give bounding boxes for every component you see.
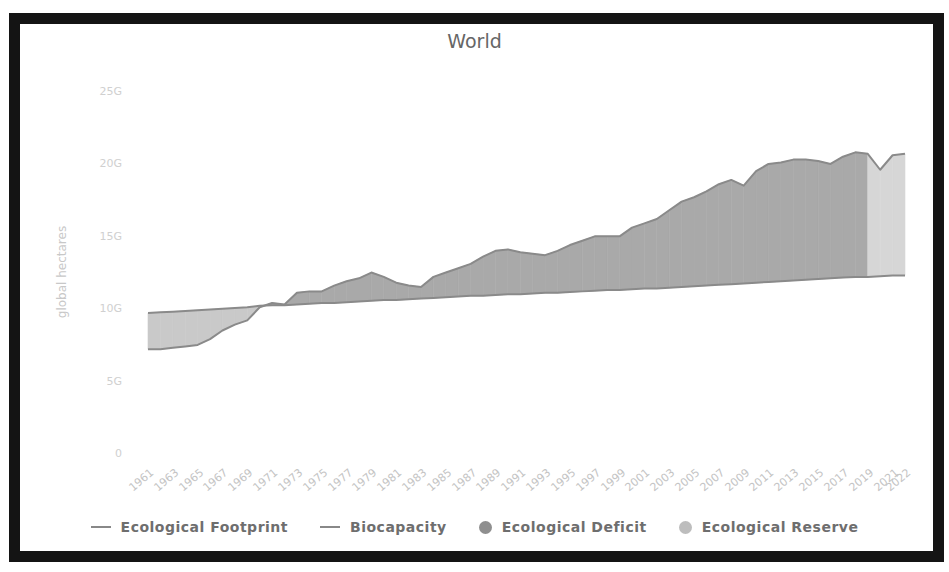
legend-label: Biocapacity (350, 519, 447, 535)
area-segment (768, 163, 780, 282)
area-segment (644, 219, 656, 289)
area-segment (682, 197, 694, 287)
biocapacity-line-icon (320, 526, 340, 528)
area-segment (520, 252, 532, 294)
area-segment (347, 278, 359, 302)
legend-label: Ecological Footprint (121, 519, 288, 535)
area-segment (806, 160, 818, 280)
area-segment (620, 228, 632, 290)
area-segment (309, 291, 321, 303)
area-segment (719, 180, 731, 285)
area-segment (818, 161, 830, 279)
area-segment (495, 249, 507, 295)
area-segment (694, 191, 706, 286)
area-segment (545, 251, 557, 293)
area-segment (843, 152, 855, 277)
area-segment (706, 184, 718, 285)
deficit-dot-icon (479, 521, 492, 534)
legend-label: Ecological Reserve (702, 519, 859, 535)
area-segment (595, 236, 607, 290)
legend-item-biocapacity[interactable]: Biocapacity (320, 519, 447, 535)
area-segment (570, 241, 582, 292)
area-segment (855, 152, 867, 277)
area-layer (148, 152, 905, 349)
area-segment (868, 154, 880, 277)
area-segment (421, 277, 433, 299)
area-segment (458, 264, 470, 297)
area-segment (607, 236, 619, 290)
reserve-dot-icon (679, 521, 692, 534)
area-segment (744, 171, 756, 283)
footprint-line-icon (91, 526, 111, 528)
legend-item-deficit[interactable]: Ecological Deficit (479, 519, 647, 535)
area-segment (893, 154, 905, 276)
area-segment (173, 311, 185, 348)
plot-area (0, 0, 949, 572)
area-segment (880, 155, 892, 276)
area-segment (483, 251, 495, 296)
area-segment (669, 202, 681, 288)
area-segment (781, 160, 793, 282)
legend: Ecological Footprint Biocapacity Ecologi… (0, 519, 949, 535)
area-segment (160, 312, 172, 350)
area-segment (185, 310, 197, 346)
area-segment (582, 236, 594, 291)
area-segment (533, 254, 545, 294)
area-segment (632, 223, 644, 289)
area-segment (731, 180, 743, 284)
legend-label: Ecological Deficit (502, 519, 647, 535)
legend-item-reserve[interactable]: Ecological Reserve (679, 519, 859, 535)
area-segment (657, 210, 669, 288)
area-segment (508, 249, 520, 294)
legend-item-footprint[interactable]: Ecological Footprint (91, 519, 288, 535)
area-segment (756, 164, 768, 283)
area-segment (831, 157, 843, 279)
area-segment (148, 312, 160, 349)
area-segment (793, 160, 805, 281)
area-segment (558, 245, 570, 293)
